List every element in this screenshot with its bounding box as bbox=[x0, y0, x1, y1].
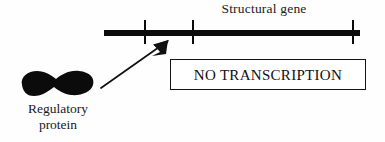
no-transcription-text: NO TRANSCRIPTION bbox=[194, 67, 342, 83]
no-transcription-callout: NO TRANSCRIPTION bbox=[170, 59, 366, 90]
regulatory-protein-label-line1: Regulatory bbox=[2, 101, 114, 117]
regulatory-protein-shape-icon bbox=[18, 66, 96, 100]
regulatory-protein-label-line2: protein bbox=[2, 117, 114, 133]
binding-arrow-icon bbox=[92, 32, 176, 94]
regulatory-protein-label: Regulatory protein bbox=[2, 101, 114, 133]
gene-tick-3 bbox=[352, 20, 354, 44]
gene-tick-2 bbox=[192, 20, 194, 44]
structural-gene-label: Structural gene bbox=[199, 1, 329, 16]
diagram-canvas: Structural gene Regulatory protein NO TR… bbox=[0, 0, 385, 142]
